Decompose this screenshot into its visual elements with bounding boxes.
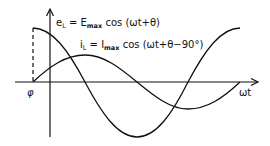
- x-axis-label: ωt: [239, 88, 251, 98]
- voltage-equation: eL = Emax cos (ωt+θ): [56, 18, 160, 28]
- phase-label: φ: [27, 88, 34, 98]
- current-equals: = I: [86, 39, 104, 50]
- voltage-expr: cos (ωt+θ): [102, 17, 160, 28]
- voltage-symbol-sub: L: [62, 22, 66, 30]
- current-equation: iL = Imax cos (ωt+θ−90°): [80, 40, 203, 50]
- current-amp-sub: max: [104, 44, 119, 52]
- voltage-equals: = E: [66, 17, 87, 28]
- voltage-amp-sub: max: [87, 22, 102, 30]
- current-symbol-sub: L: [83, 44, 87, 52]
- current-expr: cos (ωt+θ−90°): [119, 39, 203, 50]
